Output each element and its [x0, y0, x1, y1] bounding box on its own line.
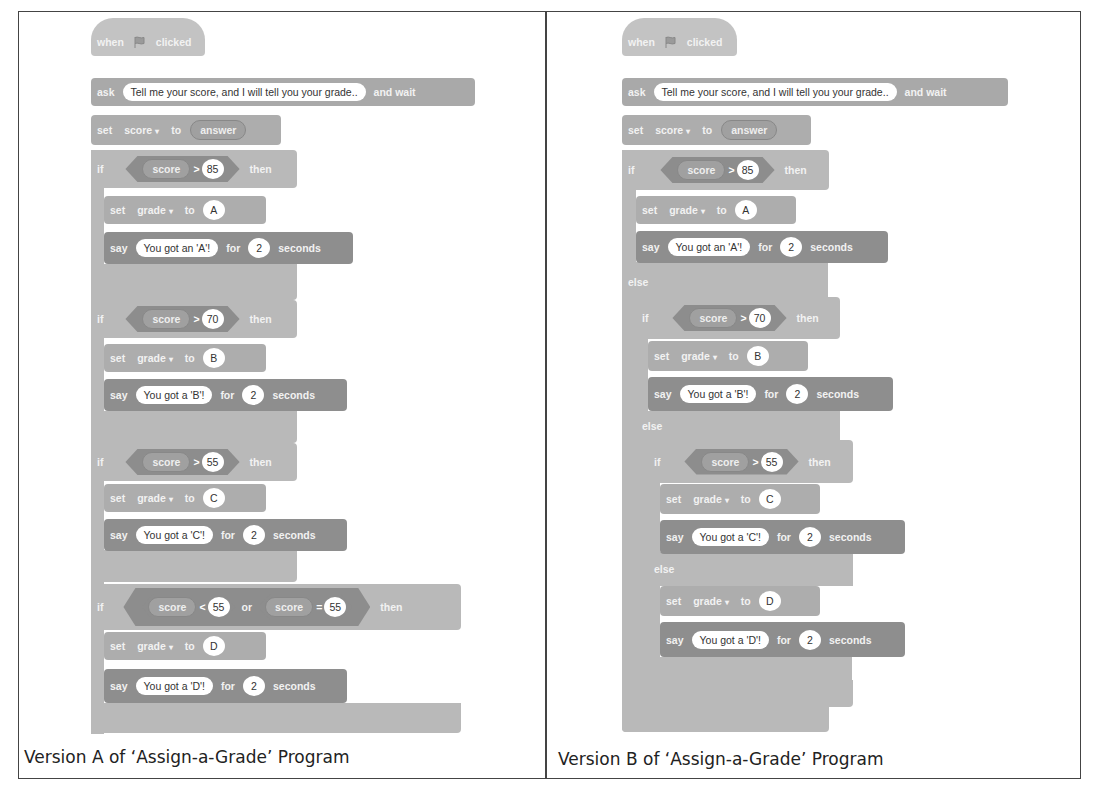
seconds-input[interactable]: 2 — [780, 237, 802, 257]
if-then-block[interactable]: if score > 55 then — [91, 443, 297, 481]
variable-dropdown[interactable]: grade▾ — [131, 492, 179, 504]
say-for-seconds-block[interactable]: say You got a 'B'! for 2 seconds — [104, 379, 347, 411]
answer-reporter[interactable]: answer — [721, 120, 777, 140]
score-reporter[interactable]: score — [142, 309, 190, 329]
seconds-input[interactable]: 2 — [248, 238, 270, 258]
if-then-else-block[interactable]: if score > 70 then — [636, 297, 840, 339]
variable-dropdown[interactable]: grade▾ — [687, 493, 735, 505]
variable-dropdown[interactable]: grade▾ — [131, 352, 179, 364]
less-than-condition[interactable]: score < 55 — [141, 594, 235, 620]
variable-dropdown[interactable]: grade▾ — [687, 595, 735, 607]
message-input[interactable]: You got a 'B'! — [680, 385, 757, 403]
variable-dropdown[interactable]: grade▾ — [675, 350, 723, 362]
for-label: for — [752, 241, 778, 253]
say-for-seconds-block[interactable]: say You got an 'A'! for 2 seconds — [636, 231, 888, 263]
dropdown-arrow-icon: ▾ — [169, 355, 173, 364]
variable-dropdown[interactable]: grade▾ — [663, 204, 711, 216]
variable-dropdown[interactable]: score▾ — [649, 124, 696, 136]
variable-name: grade — [137, 492, 166, 504]
say-for-seconds-block[interactable]: say You got a 'D'! for 2 seconds — [104, 669, 347, 703]
threshold-input[interactable]: 55 — [202, 452, 224, 472]
greater-than-condition[interactable]: score > 70 — [672, 305, 786, 331]
message-input[interactable]: You got a 'C'! — [692, 528, 769, 546]
threshold-input[interactable]: 55 — [208, 597, 230, 617]
grade-value-input[interactable]: A — [735, 200, 757, 220]
greater-than-condition[interactable]: score > 70 — [125, 306, 239, 332]
set-grade-block[interactable]: set grade▾ to D — [660, 586, 820, 616]
seconds-input[interactable]: 2 — [799, 630, 821, 650]
set-score-block[interactable]: set score▾ to answer — [622, 115, 811, 145]
equals-condition[interactable]: score = 55 — [258, 594, 352, 620]
ask-text-input[interactable]: Tell me your score, and I will tell you … — [123, 83, 366, 101]
say-for-seconds-block[interactable]: say You got a 'B'! for 2 seconds — [648, 377, 893, 411]
set-grade-block[interactable]: set grade▾ to A — [636, 196, 796, 224]
column-divider — [545, 11, 547, 779]
answer-reporter[interactable]: answer — [190, 120, 246, 140]
if-then-else-block[interactable]: if score > 85 then — [622, 150, 829, 190]
say-for-seconds-block[interactable]: say You got an 'A'! for 2 seconds — [104, 232, 353, 264]
variable-name: score — [655, 124, 683, 136]
grade-value-input[interactable]: C — [759, 489, 781, 509]
seconds-input[interactable]: 2 — [243, 676, 265, 696]
ask-and-wait-block[interactable]: ask Tell me your score, and I will tell … — [91, 78, 475, 106]
message-input[interactable]: You got an 'A'! — [668, 238, 751, 256]
seconds-input[interactable]: 2 — [799, 527, 821, 547]
greater-than-condition[interactable]: score > 85 — [660, 157, 774, 183]
message-input[interactable]: You got a 'B'! — [136, 386, 213, 404]
score-reporter[interactable]: score — [689, 308, 737, 328]
seconds-input[interactable]: 2 — [242, 385, 264, 405]
set-grade-block[interactable]: set grade▾ to A — [104, 196, 266, 224]
threshold-input[interactable]: 70 — [202, 309, 224, 329]
if-then-block[interactable]: if score < 55 or score = 55 then — [91, 584, 461, 630]
grade-value-input[interactable]: D — [759, 591, 781, 611]
message-input[interactable]: You got a 'D'! — [692, 631, 769, 649]
ask-text-input[interactable]: Tell me your score, and I will tell you … — [654, 83, 897, 101]
threshold-input[interactable]: 55 — [761, 452, 783, 472]
grade-value-input[interactable]: B — [203, 348, 225, 368]
else-text: else — [648, 563, 680, 575]
set-grade-block[interactable]: set grade▾ to B — [648, 341, 808, 371]
set-score-block[interactable]: set score▾ to answer — [91, 115, 281, 145]
set-grade-block[interactable]: set grade▾ to B — [104, 344, 266, 372]
set-grade-block[interactable]: set grade▾ to C — [660, 484, 820, 514]
threshold-input[interactable]: 85 — [202, 159, 224, 179]
if-then-block[interactable]: if score > 85 then — [91, 150, 297, 188]
message-input[interactable]: You got a 'C'! — [136, 526, 213, 544]
say-for-seconds-block[interactable]: say You got a 'C'! for 2 seconds — [104, 519, 347, 551]
set-grade-block[interactable]: set grade▾ to C — [104, 484, 266, 512]
and-wait-label: and wait — [899, 86, 953, 98]
message-input[interactable]: You got a 'D'! — [136, 677, 213, 695]
grade-value-input[interactable]: D — [203, 636, 225, 656]
grade-value-input[interactable]: B — [747, 346, 769, 366]
variable-dropdown[interactable]: grade▾ — [131, 640, 179, 652]
greater-than-condition[interactable]: score > 85 — [125, 156, 239, 182]
say-for-seconds-block[interactable]: say You got a 'C'! for 2 seconds — [660, 520, 905, 554]
when-flag-clicked-block[interactable]: when clicked — [91, 18, 205, 56]
score-reporter[interactable]: score — [148, 597, 196, 617]
seconds-input[interactable]: 2 — [243, 525, 265, 545]
or-condition[interactable]: score < 55 or score = 55 — [123, 588, 370, 626]
message-input[interactable]: You got an 'A'! — [136, 239, 219, 257]
score-reporter[interactable]: score — [677, 160, 725, 180]
say-for-seconds-block[interactable]: say You got a 'D'! for 2 seconds — [660, 622, 905, 657]
score-reporter[interactable]: score — [142, 159, 190, 179]
ask-and-wait-block[interactable]: ask Tell me your score, and I will tell … — [622, 78, 1008, 106]
grade-value-input[interactable]: C — [203, 488, 225, 508]
if-then-else-block[interactable]: if score > 55 then — [648, 440, 853, 483]
threshold-input[interactable]: 70 — [749, 308, 771, 328]
variable-dropdown[interactable]: score▾ — [118, 124, 165, 136]
greater-than-condition[interactable]: score > 55 — [125, 449, 239, 475]
when-flag-clicked-block[interactable]: when clicked — [622, 18, 737, 56]
variable-dropdown[interactable]: grade▾ — [131, 204, 179, 216]
score-reporter[interactable]: score — [701, 452, 749, 472]
grade-value-input[interactable]: A — [203, 200, 225, 220]
seconds-input[interactable]: 2 — [786, 384, 808, 404]
score-reporter[interactable]: score — [265, 597, 313, 617]
clicked-label: clicked — [150, 36, 198, 48]
greater-than-condition[interactable]: score > 55 — [684, 449, 798, 475]
if-then-block[interactable]: if score > 70 then — [91, 300, 297, 338]
score-reporter[interactable]: score — [142, 452, 190, 472]
threshold-input[interactable]: 55 — [324, 597, 346, 617]
threshold-input[interactable]: 85 — [737, 160, 759, 180]
set-grade-block[interactable]: set grade▾ to D — [104, 632, 266, 660]
